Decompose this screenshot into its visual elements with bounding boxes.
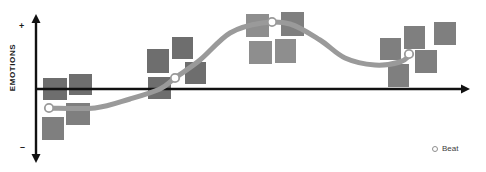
y-axis-arrow-down-icon [32,154,41,163]
story-card-group [42,12,456,140]
chart-canvas [0,0,486,172]
y-axis-arrow-up-icon [32,14,41,23]
legend: Beat [432,145,458,153]
beat-marker-circle-icon [405,50,413,58]
story-card[interactable] [42,117,64,140]
story-card[interactable] [172,37,193,59]
y-axis-negative-label: – [20,143,25,152]
beat-marker[interactable] [405,50,413,58]
story-card[interactable] [388,64,409,87]
beat-marker-circle-icon [171,74,179,82]
story-card[interactable] [434,22,456,45]
beat-marker-icon [432,146,438,152]
story-card[interactable] [380,38,401,60]
emotional-arc-curve-group [49,22,410,109]
beat-marker[interactable] [45,104,53,112]
y-axis-title: EMOTIONS [8,35,17,101]
story-card[interactable] [404,26,425,49]
story-card[interactable] [147,49,169,73]
legend-beat-label: Beat [442,145,458,153]
beat-marker-circle-icon [45,104,53,112]
emotional-arc-curve [49,22,410,109]
story-card[interactable] [69,74,92,95]
beat-marker[interactable] [268,18,276,26]
story-card[interactable] [249,41,272,64]
beat-marker-circle-icon [268,18,276,26]
y-axis-positive-label: + [19,22,24,31]
story-card[interactable] [415,50,437,73]
beat-marker[interactable] [171,74,179,82]
story-card[interactable] [275,39,296,63]
emotions-beat-chart: + – EMOTIONS Beat [0,0,486,172]
x-axis-arrow-icon [461,85,470,94]
